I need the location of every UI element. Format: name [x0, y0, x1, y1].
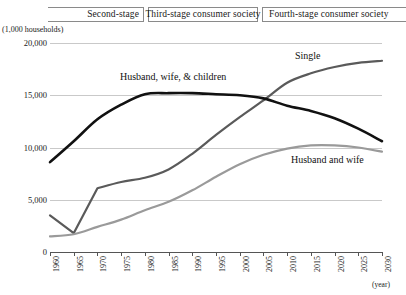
stage-box-third: Third-stage consumer society: [148, 7, 258, 22]
series-line-husband-wife-children: [50, 93, 382, 162]
x-tick-label-2030: 2030: [385, 256, 393, 272]
x-tick-label-1985: 1985: [172, 256, 180, 272]
x-tick-label-1975: 1975: [124, 256, 132, 272]
series-label-single: Single: [295, 51, 321, 61]
x-tick-label-1965: 1965: [77, 256, 85, 272]
x-tick-label-2010: 2010: [290, 256, 298, 272]
x-axis-title: (year): [372, 281, 390, 289]
x-tick-label-1980: 1980: [148, 256, 156, 272]
x-tick-label-2020: 2020: [338, 256, 346, 272]
x-tick-label-2015: 2015: [314, 256, 322, 272]
stage-box-fourth: Fourth-stage consumer society: [262, 7, 406, 22]
x-tick-label-1990: 1990: [195, 256, 203, 272]
y-tick-label-0: 0: [43, 248, 47, 257]
x-tick-2015: [311, 252, 312, 256]
x-tick-2030: [382, 252, 383, 256]
y-tick-label-20000: 20,000: [24, 39, 47, 48]
x-tick-label-2005: 2005: [266, 256, 274, 272]
y-axis-tick-labels: 05,00010,00015,00020,000: [0, 43, 47, 252]
x-tick-2010: [287, 252, 288, 256]
x-tick-label-1970: 1970: [100, 256, 108, 272]
x-tick-label-2000: 2000: [243, 256, 251, 272]
x-tick-1975: [121, 252, 122, 256]
x-tick-label-1995: 1995: [219, 256, 227, 272]
stage-label-second: Second-stage: [87, 10, 139, 20]
stage-banner: Second-stage Third-stage consumer societ…: [0, 0, 406, 24]
stage-box-second: Second-stage: [48, 7, 144, 22]
stage-label-third: Third-stage consumer society: [145, 10, 260, 20]
chart-root: Second-stage Third-stage consumer societ…: [0, 0, 406, 295]
x-tick-1980: [145, 252, 146, 256]
y-tick-label-5000: 5,000: [28, 196, 47, 205]
x-tick-label-2025: 2025: [361, 256, 369, 272]
x-tick-1960: [50, 252, 51, 256]
y-tick-label-10000: 10,000: [24, 143, 47, 152]
y-tick-label-15000: 15,000: [24, 91, 47, 100]
stage-label-fourth: Fourth-stage consumer society: [269, 10, 389, 20]
x-tick-1985: [169, 252, 170, 256]
x-tick-2000: [240, 252, 241, 256]
x-tick-label-1960: 1960: [53, 256, 61, 272]
series-label-husband-and-wife: Husband and wife: [291, 155, 364, 165]
x-tick-2020: [335, 252, 336, 256]
y-axis-unit-caption: (1,000 households): [2, 26, 63, 34]
series-line-single: [50, 61, 382, 233]
series-label-husband-wife-children: Husband, wife, & children: [120, 72, 226, 82]
x-tick-1995: [216, 252, 217, 256]
x-tick-1965: [74, 252, 75, 256]
